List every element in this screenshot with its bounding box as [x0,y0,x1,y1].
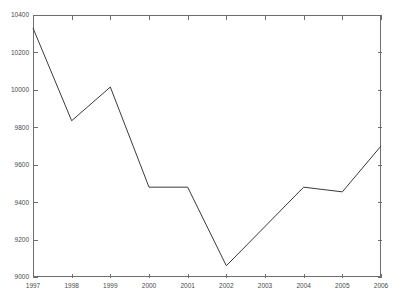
x-tick-label: 2001 [180,282,195,289]
x-tick-label: 2003 [258,282,273,289]
y-axis-tick-labels: 90009200940096009800100001020010400 [11,11,29,280]
y-tick-label: 9200 [15,236,30,243]
line-chart: 90009200940096009800100001020010400 1997… [0,0,398,299]
plot-frame-border [34,16,381,277]
y-tick-label: 9000 [15,273,30,280]
x-tick-label: 2004 [296,282,311,289]
x-tick-label: 2000 [142,282,157,289]
y-axis-tick-marks [34,16,382,278]
x-tick-label: 2002 [219,282,234,289]
y-tick-label: 9800 [15,124,30,131]
x-axis-tick-labels: 1997199819992000200120022003200420052006 [26,282,389,289]
x-tick-label: 1999 [103,282,118,289]
x-tick-label: 2006 [374,282,389,289]
y-tick-label: 10000 [11,86,29,93]
y-tick-label: 9400 [15,199,30,206]
x-tick-label: 1997 [26,282,41,289]
chart-plot-area: 90009200940096009800100001020010400 1997… [0,0,398,299]
y-tick-label: 10400 [11,11,29,18]
x-tick-label: 1998 [64,282,79,289]
y-tick-label: 9600 [15,161,30,168]
y-tick-label: 10200 [11,49,29,56]
x-tick-label: 2005 [335,282,350,289]
x-axis-tick-marks [34,16,382,278]
data-series-line [33,28,381,266]
